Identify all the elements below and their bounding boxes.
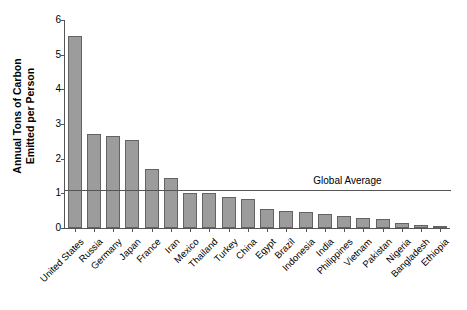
y-axis-tick-label: 1 bbox=[47, 188, 61, 198]
y-axis-tick-mark bbox=[61, 89, 65, 90]
y-axis-tick-label: 5 bbox=[47, 50, 61, 60]
x-axis-category-label-text: United States bbox=[37, 236, 85, 284]
y-axis-title-line-1: Annual Tons of Carbon bbox=[11, 58, 23, 173]
global-average-line bbox=[65, 190, 451, 191]
bar bbox=[68, 36, 82, 228]
plot-inner: Global Average bbox=[65, 20, 450, 228]
y-axis-tick-mark bbox=[61, 20, 65, 21]
y-axis-tick-mark bbox=[61, 124, 65, 125]
y-axis-title: Annual Tons of Carbon Emitted per Person bbox=[11, 58, 36, 173]
plot-area: Global Average bbox=[64, 20, 450, 229]
carbon-emissions-bar-chart: Annual Tons of Carbon Emitted per Person… bbox=[0, 0, 467, 310]
global-average-label: Global Average bbox=[313, 175, 381, 186]
y-axis-tick-label: 3 bbox=[47, 119, 61, 129]
y-axis-tick-labels: 0123456 bbox=[45, 0, 61, 232]
y-axis-tick-mark bbox=[61, 55, 65, 56]
y-axis-tick-mark bbox=[61, 193, 65, 194]
bar bbox=[183, 193, 197, 228]
y-axis-title-line-2: Emitted per Person bbox=[23, 58, 36, 173]
y-axis-tick-mark bbox=[61, 159, 65, 160]
y-axis-tick-label: 0 bbox=[47, 223, 61, 233]
x-axis-category-labels: United StatesRussiaGermanyJapanFranceIra… bbox=[64, 232, 449, 310]
y-axis-tick-mark bbox=[61, 228, 65, 229]
y-axis-tick-label: 4 bbox=[47, 84, 61, 94]
y-axis-tick-label: 6 bbox=[47, 15, 61, 25]
y-axis-title-container: Annual Tons of Carbon Emitted per Person bbox=[0, 0, 46, 232]
y-axis-tick-label: 2 bbox=[47, 154, 61, 164]
